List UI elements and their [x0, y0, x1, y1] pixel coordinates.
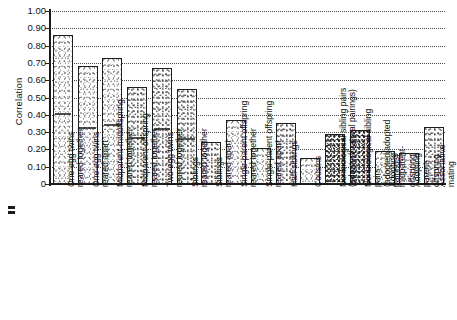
y-axis-tick-labels: 1.000.900.800.700.600.500.400.300.200.10…: [14, 0, 46, 320]
y-tick-label: 0.90: [28, 23, 47, 33]
y-tick-label: 0.10: [28, 162, 47, 172]
x-category-label: Half-siblings: [290, 140, 299, 187]
x-category-label: Single-parent offspring reared together: [240, 101, 259, 187]
y-tick-mark: [45, 98, 50, 99]
y-tick-mark: [45, 11, 50, 12]
x-category-label: Single-parent offspring reared apart: [265, 101, 284, 187]
y-tick-mark: [45, 149, 50, 150]
y-tick-label: 0.50: [28, 93, 47, 103]
y-tick-mark: [45, 80, 50, 81]
x-category-label: Two-egg twins reared together: [166, 128, 185, 187]
x-category-label: Nonbiological sibling pairs (adopted/nat…: [339, 88, 358, 187]
x-category-label: Midparent-midoffspring reared together: [116, 99, 135, 187]
bar-smudge: [55, 113, 71, 115]
y-tick-label: 0.40: [28, 110, 47, 120]
y-tick-mark: [45, 115, 50, 116]
x-category-label: Assortative mating: [438, 144, 457, 187]
y-tick-label: 0.20: [28, 144, 47, 154]
y-tick-mark: [45, 28, 50, 29]
x-category-label: Siblings reared together: [191, 128, 210, 187]
x-category-label: Midparent-offspring reared together: [141, 113, 160, 187]
scan-artifact-mark: [8, 206, 15, 209]
y-tick-label: 1.00: [28, 6, 47, 16]
y-tick-mark: [45, 63, 50, 64]
x-category-label: Siblings reared apart: [215, 140, 234, 187]
x-category-label: Cousins: [314, 156, 323, 187]
y-tick-label: 0.60: [28, 75, 47, 85]
x-category-label: One-egg twins reared together: [67, 128, 86, 187]
scan-artifact-mark: [8, 211, 15, 214]
y-tick-mark: [45, 184, 50, 185]
y-tick-label: 0.80: [28, 41, 47, 51]
y-tick-mark: [45, 167, 50, 168]
y-tick-mark: [45, 46, 50, 47]
x-category-label: One-egg twins reared apart: [92, 132, 111, 187]
y-tick-label: 0.70: [28, 58, 47, 68]
y-tick-label: 0.30: [28, 127, 47, 137]
y-tick-mark: [45, 132, 50, 133]
x-axis-category-labels: One-egg twins reared togetherOne-egg twi…: [49, 186, 445, 320]
